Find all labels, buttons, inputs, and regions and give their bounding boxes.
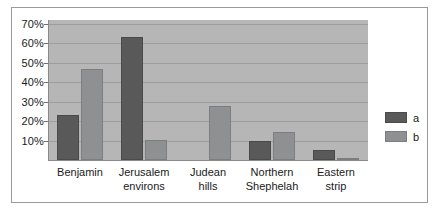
y-axis-line [48, 20, 49, 161]
y-tick-label-20: 20% [21, 115, 44, 127]
legend-swatch-a [385, 112, 407, 123]
y-tick-label-10: 10% [21, 135, 44, 147]
x-category-label-northern-shephelah: Northern Shephelah [240, 166, 304, 193]
bar-a-eastern-strip [313, 150, 335, 160]
gridline-70 [48, 24, 368, 25]
y-tick-label-40: 40% [21, 76, 44, 88]
bar-a-benjamin [57, 115, 79, 160]
bar-b-eastern-strip [337, 158, 359, 160]
legend-entry-b: b [385, 129, 431, 144]
gridline-60 [48, 43, 368, 44]
x-category-label-jerusalem-environs: Jerusalem environs [112, 166, 176, 193]
x-axis-line [48, 160, 368, 161]
bar-chart-figure: 10%20%30%40%50%60%70% BenjaminJerusalem … [0, 0, 441, 214]
bar-b-northern-shephelah [273, 132, 295, 160]
x-category-label-benjamin: Benjamin [48, 166, 112, 180]
legend-entry-a: a [385, 110, 431, 125]
legend-swatch-b [385, 131, 407, 142]
y-tick-label-70: 70% [21, 18, 44, 30]
legend-label-a: a [413, 112, 419, 124]
legend-label-b: b [413, 131, 419, 143]
x-category-label-judean-hills: Judean hills [176, 166, 240, 193]
y-axis-tick-labels: 10%20%30%40%50%60%70% [0, 0, 44, 214]
bar-b-benjamin [81, 69, 103, 160]
bar-a-jerusalem-environs [121, 37, 143, 160]
x-category-label-eastern-strip: Eastern strip [304, 166, 368, 193]
bar-b-judean-hills [209, 106, 231, 160]
y-tick-label-30: 30% [21, 96, 44, 108]
gridline-50 [48, 63, 368, 64]
y-tick-label-60: 60% [21, 37, 44, 49]
y-tick-label-50: 50% [21, 57, 44, 69]
bar-a-northern-shephelah [249, 141, 271, 160]
chart-legend: ab [385, 110, 431, 148]
bar-b-jerusalem-environs [145, 140, 167, 160]
